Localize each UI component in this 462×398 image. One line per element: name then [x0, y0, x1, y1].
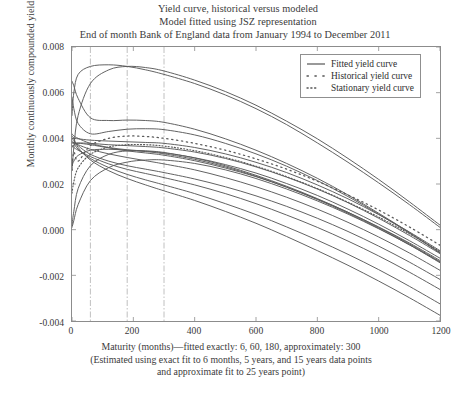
- legend-item-fitted[interactable]: Fitted yield curve: [305, 58, 414, 70]
- x-axis-caption-block: Maturity (months)—fitted exactly: 6, 60,…: [0, 341, 462, 379]
- dotted-tight-line-icon: [305, 83, 327, 93]
- y-tick-label-0: 0.008: [6, 41, 64, 52]
- legend-item-historical[interactable]: Historical yield curve: [305, 70, 414, 82]
- y-tick-label-1: 0.006: [6, 87, 64, 98]
- x-tick-label-5: 1000: [357, 325, 401, 336]
- x-tick-label-4: 800: [295, 325, 339, 336]
- legend-label-stationary: Stationary yield curve: [331, 82, 414, 94]
- x-axis-caption-line-3: and approximate fit to 25 years point): [0, 366, 462, 379]
- x-axis-caption-line-1: Maturity (months)—fitted exactly: 6, 60,…: [0, 341, 462, 354]
- y-tick-label-3: 0.002: [6, 179, 64, 190]
- y-tick-label-4: 0.000: [6, 225, 64, 236]
- y-tick-label-2: 0.004: [6, 133, 64, 144]
- chart-title-line-1: Yield curve, historical versus modeled: [0, 2, 462, 15]
- chart-title-line-2: Model fitted using JSZ representation: [0, 15, 462, 28]
- legend-item-stationary[interactable]: Stationary yield curve: [305, 82, 414, 94]
- chart-title-line-3: End of month Bank of England data from J…: [0, 28, 462, 41]
- x-tick-label-3: 600: [234, 325, 278, 336]
- dotted-wide-line-icon: [305, 71, 327, 81]
- x-axis-caption-line-2: (Estimated using exact fit to 6 months, …: [0, 354, 462, 367]
- y-tick-label-5: -0.002: [6, 271, 64, 282]
- x-tick-label-6: 1200: [419, 325, 462, 336]
- x-tick-label-0: 0: [49, 325, 93, 336]
- x-tick-label-1: 200: [110, 325, 154, 336]
- legend-label-historical: Historical yield curve: [331, 70, 412, 82]
- y-axis-label: Monthly continuously compounded yield: [25, 0, 36, 209]
- legend-label-fitted: Fitted yield curve: [331, 58, 397, 70]
- chart-title-block: Yield curve, historical versus modeled M…: [0, 2, 462, 42]
- x-tick-label-2: 400: [172, 325, 216, 336]
- figure-canvas: Yield curve, historical versus modeled M…: [0, 0, 462, 398]
- chart-legend[interactable]: Fitted yield curve Historical yield curv…: [300, 54, 421, 98]
- solid-line-icon: [305, 59, 327, 69]
